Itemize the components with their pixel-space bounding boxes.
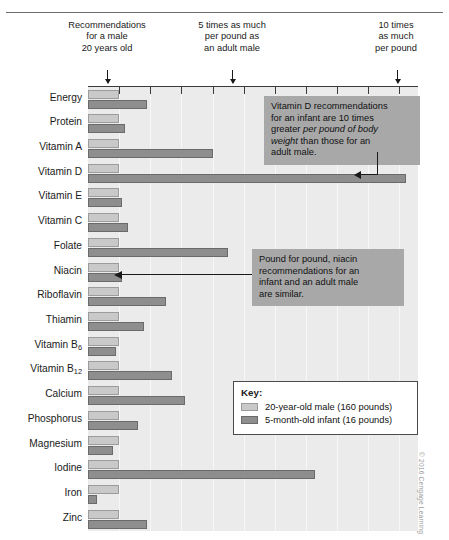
legend-label-infant: 5-month-old infant (16 pounds) [265,415,392,425]
callout-vitamin-d-leader-horizontal [360,174,378,175]
bar-row [88,188,418,213]
legend-entry: 5-month-old infant (16 pounds) [241,415,410,425]
bar-infant [88,198,122,207]
bar-infant [88,396,185,405]
category-label: Vitamin E [39,190,82,201]
bar-adult-male [88,114,119,123]
bar-infant [88,371,172,380]
category-label: Energy [50,92,82,103]
bar-adult-male [88,510,119,519]
category-label: Folate [54,240,82,251]
legend-label-adult-male: 20-year-old male (160 pounds) [265,402,392,412]
axis-pointer-1x-icon [107,70,108,83]
callout-niacin: Pound for pound, niacinrecommendations f… [252,249,404,306]
bar-row [88,436,418,461]
bar-adult-male [88,213,119,222]
callout-line: weight than those for an [271,136,413,148]
callout-niacin-arrow-icon [114,271,122,279]
category-label: Zinc [63,512,82,523]
bar-infant [88,100,147,109]
bar-adult-male [88,485,119,494]
callout-line: greater per pound of body [271,124,413,136]
bar-adult-male [88,238,119,247]
bar-row [88,337,418,362]
callout-line: recommendations for an [259,266,397,278]
bar-row [88,312,418,337]
bar-infant [88,347,116,356]
bar-row [88,510,418,535]
bar-row [88,164,418,189]
callout-line: adult male. [271,147,413,159]
category-label: Phosphorus [28,413,82,424]
bar-adult-male [88,337,119,346]
axis-note-10x: 10 times as much per pound [330,20,449,54]
bar-adult-male [88,386,119,395]
category-axis-labels: EnergyProteinVitamin AVitamin DVitamin E… [0,86,86,531]
bar-infant [88,248,228,257]
bar-adult-male [88,90,119,99]
callout-line: Vitamin D recommendations [271,101,413,113]
category-label: Vitamin A [39,141,82,152]
category-label: Riboflavin [37,289,82,300]
callout-line: are similar. [259,289,397,301]
bar-infant [88,495,97,504]
bar-infant [88,421,138,430]
legend-swatch-infant [241,416,258,424]
bar-infant [88,124,125,133]
category-label: Iodine [54,462,82,473]
bar-adult-male [88,139,119,148]
bar-infant [88,149,213,158]
legend-swatch-adult-male [241,403,258,411]
bar-adult-male [88,460,119,469]
bar-infant [88,322,144,331]
legend-entry: 20-year-old male (160 pounds) [241,402,410,412]
bar-adult-male [88,287,119,296]
legend-title: Key: [241,387,410,398]
bar-row [88,485,418,510]
bar-infant [88,520,147,529]
category-label: Vitamin B6 [34,339,82,351]
callout-vitamin-d-arrow-icon [354,171,361,179]
bar-adult-male [88,411,119,420]
axis-annotations: Recommendations for a male 20 years old … [0,18,449,80]
category-label: Niacin [54,265,82,276]
callout-vitamin-d: Vitamin D recommendationsfor an infant a… [264,96,420,165]
bar-infant [88,297,166,306]
category-label: Vitamin C [38,215,82,226]
category-label: Vitamin D [38,166,82,177]
category-label: Vitamin B12 [30,363,82,375]
axis-pointer-5x-icon [232,70,233,83]
callout-niacin-leader [122,274,252,275]
bar-infant [88,446,113,455]
category-label: Calcium [45,388,82,399]
bar-adult-male [88,436,119,445]
copyright-credit: © 2016 Cengage Learning [418,452,425,534]
bar-adult-male [88,312,119,321]
callout-vitamin-d-leader-vertical [377,152,378,175]
bar-infant [88,223,128,232]
legend-key: Key: 20-year-old male (160 pounds) 5-mon… [233,381,418,435]
bar-adult-male [88,361,119,370]
bar-adult-male [88,164,119,173]
bar-row [88,460,418,485]
bar-infant [88,470,315,479]
category-label: Thiamin [46,314,82,325]
bar-adult-male [88,188,119,197]
bar-row [88,213,418,238]
category-label: Magnesium [29,438,82,449]
callout-line: Pound for pound, niacin [259,254,397,266]
category-label: Iron [64,487,82,498]
callout-line: infant and an adult male [259,277,397,289]
category-label: Protein [50,116,82,127]
header-rule [6,12,443,13]
axis-pointer-10x-icon [397,70,398,83]
callout-line: for an infant are 10 times [271,113,413,125]
axis-note-5x: 5 times as much per pound as an adult ma… [166,20,298,54]
figure-container: Recommendations for a male 20 years old … [0,0,449,540]
